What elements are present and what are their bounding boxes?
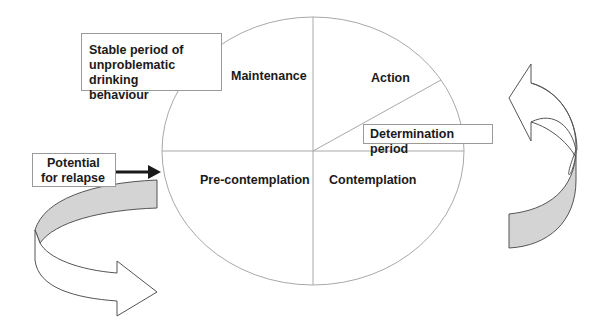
left-cycle-arrow-icon — [35, 180, 157, 316]
relapse-box: Potential for relapse — [32, 153, 116, 187]
segment-label-maintenance: Maintenance — [231, 69, 307, 84]
stable-line-3: behaviour — [89, 88, 221, 103]
determination-period-box: Determination period — [363, 124, 493, 144]
relapse-line-1: Potential — [47, 156, 115, 171]
relapse-arrow-icon — [112, 165, 161, 179]
stable-line-2: unproblematic drinking — [89, 58, 221, 88]
segment-label-action: Action — [371, 71, 410, 86]
segment-label-precontemplation: Pre-contemplation — [200, 173, 310, 188]
determination-line-1: Determination period — [370, 127, 492, 157]
stable-period-box: Stable period of unproblematic drinking … — [81, 33, 222, 91]
stable-line-1: Stable period of — [89, 43, 221, 58]
relapse-line-2: for relapse — [41, 171, 115, 186]
segment-label-contemplation: Contemplation — [329, 173, 417, 188]
right-cycle-arrow-icon — [509, 64, 577, 248]
